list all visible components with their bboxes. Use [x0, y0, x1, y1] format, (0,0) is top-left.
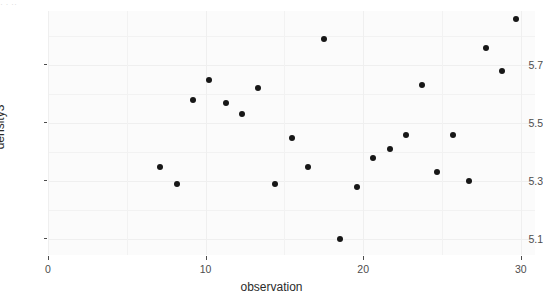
scatter-plot-figure: · · ·· 5.75.55.35.1 density3 0102030 obs… [0, 0, 543, 303]
data-point [223, 100, 229, 106]
gridline-vertical-minor [127, 11, 128, 255]
data-point [272, 181, 278, 187]
data-point [499, 68, 505, 74]
gridline-horizontal-minor [48, 152, 535, 153]
data-point [239, 111, 245, 117]
data-point [434, 169, 440, 175]
x-tick-label: 10 [186, 264, 226, 275]
gridline-horizontal [48, 65, 535, 66]
plot-panel [48, 11, 535, 255]
gridline-vertical [206, 11, 207, 255]
data-point [157, 164, 163, 170]
data-point [190, 97, 196, 103]
data-point [305, 164, 311, 170]
gridline-horizontal [48, 181, 535, 182]
data-point [513, 16, 519, 22]
data-point [354, 184, 360, 190]
y-axis-title: density3 [0, 105, 7, 150]
gridline-vertical-minor [284, 11, 285, 255]
data-point [419, 82, 425, 88]
y-axis-title-wrap: density3 [0, 0, 48, 255]
x-axis-title: observation [0, 280, 543, 294]
y-tick-label: 5.3 [513, 176, 543, 186]
gridline-horizontal-minor [48, 36, 535, 37]
y-tick-label: 5.5 [513, 118, 543, 128]
gridline-horizontal [48, 239, 535, 240]
x-tick-mark [48, 256, 49, 260]
data-point [483, 45, 489, 51]
data-point [403, 132, 409, 138]
data-point [466, 178, 472, 184]
data-point [255, 85, 261, 91]
x-tick-label: 30 [501, 264, 541, 275]
y-tick-label: 5.7 [513, 60, 543, 70]
gridline-vertical [521, 11, 522, 255]
data-point [337, 236, 343, 242]
data-point [370, 155, 376, 161]
data-point [206, 77, 212, 83]
x-tick-label: 0 [28, 264, 68, 275]
gridline-vertical-minor [442, 11, 443, 255]
gridline-vertical [48, 11, 49, 255]
x-tick-mark [363, 256, 364, 260]
data-point [174, 181, 180, 187]
gridline-horizontal [48, 123, 535, 124]
data-point [289, 135, 295, 141]
gridline-vertical [363, 11, 364, 255]
x-tick-label: 20 [343, 264, 383, 275]
y-tick-label: 5.1 [513, 234, 543, 244]
gridline-horizontal-minor [48, 210, 535, 211]
data-point [450, 132, 456, 138]
gridline-horizontal-minor [48, 94, 535, 95]
x-tick-mark [521, 256, 522, 260]
x-tick-mark [206, 256, 207, 260]
data-point [321, 36, 327, 42]
